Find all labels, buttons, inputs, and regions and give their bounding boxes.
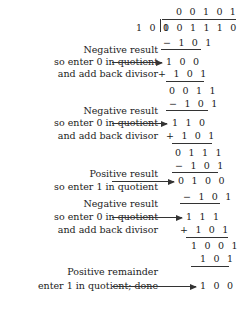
subtract-divisor-1: − 1 0 1 [163,37,214,48]
division-bracket [160,19,161,32]
label-positive-3: Positive result [89,168,158,179]
rule [172,143,212,144]
label-addback-4: and add back divisor [58,224,158,235]
rule [172,172,218,173]
rule [180,203,220,204]
result-3: 0 1 0 0 [178,175,227,186]
arrow-icon [112,123,167,124]
result-1: 1 0 0 [166,56,201,67]
result-2: 1 1 0 [172,117,207,128]
quotient: 0 0 1 0 1 [176,6,238,17]
label-negative-1: Negative result [83,44,158,55]
rule [161,49,201,50]
arrow-icon [112,62,162,63]
partial-3: 0 1 1 1 [175,147,224,158]
divisor-5: 1 0 1 [200,253,235,264]
subtract-divisor-3: − 1 0 1 [175,160,226,171]
result-4: 1 1 1 [186,211,221,222]
rule [191,266,229,267]
label-negative-2: Negative result [83,105,158,116]
label-addback-2: and add back divisor [58,130,158,141]
rule [166,81,204,82]
subtract-divisor-4: − 1 0 1 [183,191,234,202]
rule [166,110,208,111]
add-divisor-4: + 1 0 1 [180,224,231,235]
label-enter1-3: so enter 1 in quotient [54,181,158,192]
label-positive-remainder: Positive remainder [67,266,158,277]
arrow-icon [112,217,182,218]
subtract-divisor-2: − 1 0 1 [169,98,220,109]
partial-2: 0 0 1 1 [169,85,218,96]
partial-5: 1 0 0 1 [191,240,240,251]
label-addback-1: and add back divisor [58,68,158,79]
add-divisor-1: + 1 0 1 [158,68,209,79]
label-negative-4: Negative result [83,198,158,209]
rule [186,237,228,238]
final-remainder: 1 0 0 [200,280,235,291]
add-divisor-2: + 1 0 1 [166,130,217,141]
division-bar [162,19,236,20]
dividend: 0 0 1 1 1 0 1 [163,22,240,33]
arrow-icon [112,286,196,287]
